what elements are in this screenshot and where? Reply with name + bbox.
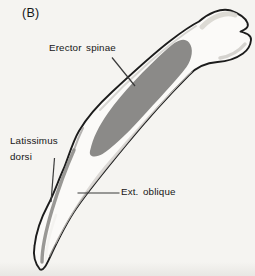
latissimus-dorsi-label-line2: dorsi: [10, 149, 58, 165]
figure-panel: (B) Erector spinae Latissimus dorsi Ext.…: [0, 0, 255, 276]
ext-oblique-label: Ext. oblique: [121, 186, 176, 198]
latissimus-dorsi-label: Latissimus dorsi: [10, 133, 58, 164]
latissimus-dorsi-label-line1: Latissimus: [10, 133, 58, 149]
erector-spinae-label: Erector spinae: [49, 42, 116, 54]
panel-label: (B): [22, 7, 40, 19]
